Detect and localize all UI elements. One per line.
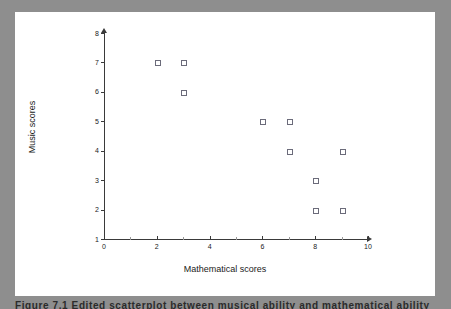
x-tick-4 (210, 236, 211, 240)
y-tick-5 (101, 121, 105, 122)
x-tick-minor-9 (342, 237, 343, 240)
x-tick-minor-3 (183, 237, 184, 240)
y-tick-label-1: 1 (87, 236, 99, 243)
x-tick-0 (104, 236, 105, 240)
y-tick-3 (101, 180, 105, 181)
y-tick-label-8: 8 (87, 30, 99, 37)
scatter-plot: 12345678 0246810 Mathematical scores Mus… (15, 12, 435, 296)
data-point (260, 119, 266, 125)
y-tick-7 (101, 62, 105, 63)
figure-caption: Figure 7.1 Edited scatterplot between mu… (15, 299, 445, 309)
x-tick-minor-5 (236, 237, 237, 240)
x-tick-6 (262, 236, 263, 240)
y-tick-label-2: 2 (87, 206, 99, 213)
x-tick-minor-1 (130, 237, 131, 240)
x-tick-8 (315, 236, 316, 240)
y-tick-4 (101, 151, 105, 152)
data-point (287, 149, 293, 155)
data-point (287, 119, 293, 125)
data-point (340, 208, 346, 214)
data-point (155, 60, 161, 66)
y-tick-label-6: 6 (87, 88, 99, 95)
figure-panel: 12345678 0246810 Mathematical scores Mus… (15, 12, 435, 296)
x-tick-label-10: 10 (358, 243, 378, 250)
x-tick-label-8: 8 (305, 243, 325, 250)
x-tick-label-2: 2 (147, 243, 167, 250)
x-tick-label-4: 4 (200, 243, 220, 250)
data-point (181, 90, 187, 96)
data-point (313, 178, 319, 184)
x-tick-10 (368, 236, 369, 240)
x-tick-2 (157, 236, 158, 240)
y-tick-2 (101, 210, 105, 211)
figure-page: 12345678 0246810 Mathematical scores Mus… (0, 0, 451, 309)
x-axis-title: Mathematical scores (15, 264, 435, 274)
x-tick-label-0: 0 (94, 243, 114, 250)
data-point (181, 60, 187, 66)
y-tick-label-5: 5 (87, 118, 99, 125)
data-point (340, 149, 346, 155)
x-tick-minor-7 (289, 237, 290, 240)
y-axis-title: Music scores (27, 72, 37, 182)
y-tick-label-4: 4 (87, 147, 99, 154)
y-tick-label-3: 3 (87, 177, 99, 184)
y-tick-label-7: 7 (87, 59, 99, 66)
y-tick-8 (101, 33, 105, 34)
data-point (313, 208, 319, 214)
x-tick-label-6: 6 (252, 243, 272, 250)
y-tick-6 (101, 92, 105, 93)
